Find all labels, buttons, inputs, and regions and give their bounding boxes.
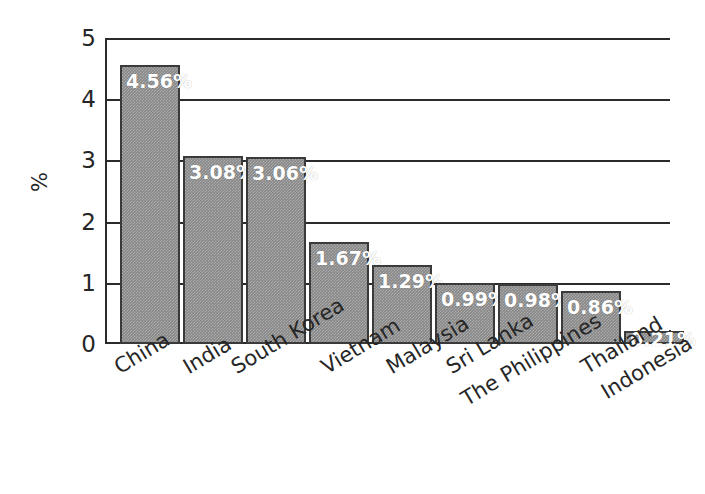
bar-malaysia[interactable]: 1.29% [372, 265, 432, 344]
y-axis-title: % [28, 160, 52, 204]
bar-indonesia[interactable]: 0.21% [624, 331, 684, 344]
bar-india[interactable]: 3.08% [183, 156, 243, 345]
bar-china[interactable]: 4.56% [120, 65, 180, 344]
y-tick-label-0: 0 [60, 333, 96, 356]
y-tick-label-1: 1 [60, 271, 96, 294]
bars-layer: 4.56% 3.08% 3.06% 1.67% 1.29% 0.99% 0.98… [106, 38, 670, 344]
bar-data-label-south-korea: 3.06% [252, 164, 318, 184]
bar-data-label-thailand: 0.86% [567, 298, 633, 318]
y-tick-label-4: 4 [60, 88, 96, 111]
y-tick-label-5: 5 [60, 27, 96, 50]
bar-thailand[interactable]: 0.86% [561, 291, 621, 344]
bar-data-label-china: 4.56% [126, 72, 192, 92]
y-tick-label-2: 2 [60, 210, 96, 233]
bar-sri-lanka[interactable]: 0.99% [435, 283, 495, 344]
bar-vietnam[interactable]: 1.67% [309, 242, 369, 344]
bar-chart: % 5 4 3 2 1 0 4.56% 3.08% 3.06% 1.67% [0, 0, 705, 494]
plot-area: 4.56% 3.08% 3.06% 1.67% 1.29% 0.99% 0.98… [106, 38, 670, 344]
bar-data-label-indonesia: 0.21% [630, 330, 696, 350]
y-tick-label-3: 3 [60, 149, 96, 172]
bar-south-korea[interactable]: 3.06% [246, 157, 306, 344]
bar-the-philippines[interactable]: 0.98% [498, 284, 558, 344]
